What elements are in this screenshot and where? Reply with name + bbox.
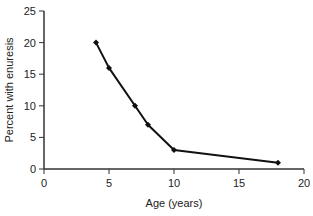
y-tick-label: 0 bbox=[30, 163, 36, 175]
y-tick-label: 10 bbox=[24, 100, 36, 112]
data-line bbox=[96, 43, 278, 163]
line-chart: 0510152025 05101520 Age (years) Percent … bbox=[0, 0, 313, 216]
x-tick-label: 10 bbox=[168, 177, 180, 189]
y-axis-title: Percent with enuresis bbox=[3, 37, 15, 143]
y-tick-label: 5 bbox=[30, 131, 36, 143]
x-tick-label: 20 bbox=[298, 177, 310, 189]
y-axis-ticks: 0510152025 bbox=[24, 5, 44, 175]
x-tick-label: 0 bbox=[41, 177, 47, 189]
data-point-marker bbox=[275, 160, 281, 166]
x-tick-label: 5 bbox=[106, 177, 112, 189]
data-markers bbox=[93, 40, 281, 166]
y-tick-label: 20 bbox=[24, 37, 36, 49]
y-tick-label: 25 bbox=[24, 5, 36, 17]
x-axis-ticks: 05101520 bbox=[41, 169, 310, 189]
y-tick-label: 15 bbox=[24, 68, 36, 80]
x-axis-title: Age (years) bbox=[146, 197, 203, 209]
x-tick-label: 15 bbox=[233, 177, 245, 189]
